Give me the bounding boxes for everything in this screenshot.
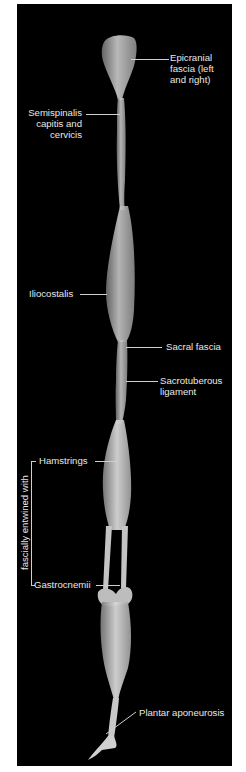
plantar-leader-line [0, 0, 246, 772]
plantar-aponeurosis-label: Plantar aponeurosis [139, 707, 224, 718]
